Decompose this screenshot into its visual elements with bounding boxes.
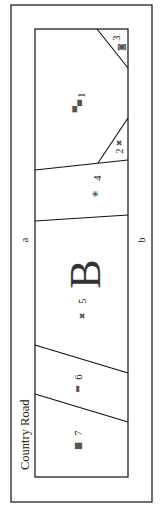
block-label: B [61,259,110,288]
edge-label-b: b [135,237,147,243]
building-icon: ▀▄ [72,99,82,113]
barn-icon: ▆ [73,442,82,450]
lot-number-4: 4 [92,175,103,181]
road-label: Country Road [18,399,32,470]
garden-icon: ❀ [91,190,100,197]
plat-map: Country Road a b B 1 ▀▄ 2 ✖ 3 ◙ 4 ❀ 5 ✖ … [0,0,160,516]
tree-icon: ✖ [115,139,124,146]
lot-number-7: 7 [73,430,84,435]
outer-frame [11,5,152,502]
lot-line-4-5 [35,215,128,221]
lot-number-6: 6 [73,374,84,379]
lot-number-2: 2 [114,148,125,153]
tree-icon: ✖ [78,312,87,319]
house-icon: ◙ [117,43,126,51]
fence-icon: ▬ [73,385,82,393]
lot-line-2-4 [35,160,128,170]
lot-line-5-6 [35,345,128,373]
lot-number-5: 5 [77,298,88,303]
lot-number-3: 3 [111,35,122,40]
lot-number-1: 1 [76,92,87,97]
edge-label-a: a [18,237,30,242]
lot-line-6-7 [35,394,128,422]
